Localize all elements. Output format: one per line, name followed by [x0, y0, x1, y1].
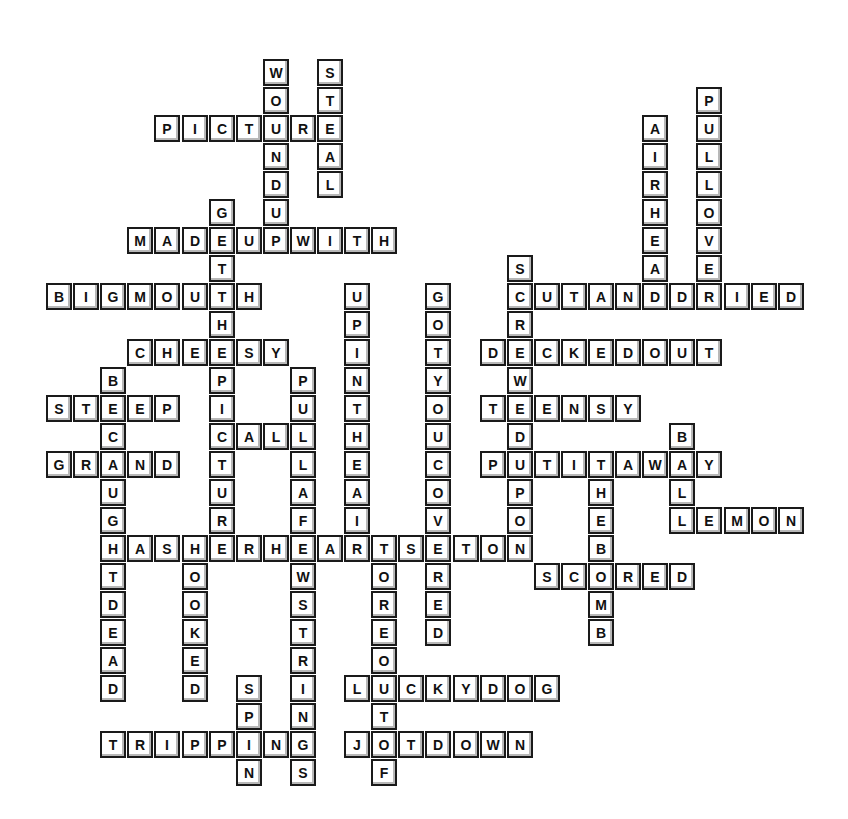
crossword-cell[interactable]: O [371, 647, 397, 674]
crossword-cell[interactable]: A [588, 283, 614, 310]
crossword-cell[interactable]: R [290, 115, 316, 142]
crossword-cell[interactable]: C [507, 283, 533, 310]
crossword-cell[interactable]: T [480, 395, 506, 422]
crossword-cell[interactable]: R [425, 563, 451, 590]
crossword-cell[interactable]: O [480, 535, 506, 562]
crossword-cell[interactable]: D [154, 451, 180, 478]
crossword-cell[interactable]: U [425, 423, 451, 450]
crossword-cell[interactable]: R [209, 507, 235, 534]
crossword-cell[interactable]: V [425, 507, 451, 534]
crossword-cell[interactable]: P [480, 451, 506, 478]
crossword-cell[interactable]: D [425, 731, 451, 758]
crossword-cell[interactable]: I [290, 675, 316, 702]
crossword-cell[interactable]: I [209, 395, 235, 422]
crossword-cell[interactable]: T [398, 731, 424, 758]
crossword-cell[interactable]: C [209, 115, 235, 142]
crossword-cell[interactable]: I [344, 507, 370, 534]
crossword-cell[interactable]: N [561, 395, 587, 422]
crossword-cell[interactable]: B [100, 367, 126, 394]
crossword-cell[interactable]: E [371, 619, 397, 646]
crossword-cell[interactable]: Y [263, 339, 289, 366]
crossword-cell[interactable]: O [507, 675, 533, 702]
crossword-cell[interactable]: R [290, 647, 316, 674]
crossword-cell[interactable]: B [588, 535, 614, 562]
crossword-cell[interactable]: D [182, 227, 208, 254]
crossword-cell[interactable]: E [182, 647, 208, 674]
crossword-cell[interactable]: A [290, 479, 316, 506]
crossword-cell[interactable]: I [642, 143, 668, 170]
crossword-cell[interactable]: D [100, 675, 126, 702]
crossword-cell[interactable]: P [154, 115, 180, 142]
crossword-cell[interactable]: E [209, 227, 235, 254]
crossword-cell[interactable]: R [642, 171, 668, 198]
crossword-cell[interactable]: L [290, 451, 316, 478]
crossword-cell[interactable]: E [182, 339, 208, 366]
crossword-cell[interactable]: I [73, 283, 99, 310]
crossword-cell[interactable]: T [290, 619, 316, 646]
crossword-cell[interactable]: L [696, 143, 722, 170]
crossword-cell[interactable]: D [480, 339, 506, 366]
crossword-cell[interactable]: T [100, 731, 126, 758]
crossword-cell[interactable]: T [209, 451, 235, 478]
crossword-cell[interactable]: H [209, 311, 235, 338]
crossword-cell[interactable]: S [236, 675, 262, 702]
crossword-cell[interactable]: G [46, 451, 72, 478]
crossword-cell[interactable]: S [46, 395, 72, 422]
crossword-cell[interactable]: L [669, 479, 695, 506]
crossword-cell[interactable]: P [344, 311, 370, 338]
crossword-cell[interactable]: E [425, 591, 451, 618]
crossword-cell[interactable]: C [100, 423, 126, 450]
crossword-cell[interactable]: D [669, 283, 695, 310]
crossword-cell[interactable]: A [642, 115, 668, 142]
crossword-cell[interactable]: C [425, 451, 451, 478]
crossword-cell[interactable]: E [642, 563, 668, 590]
crossword-cell[interactable]: A [669, 451, 695, 478]
crossword-cell[interactable]: O [751, 507, 777, 534]
crossword-cell[interactable]: E [642, 227, 668, 254]
crossword-cell[interactable]: U [669, 339, 695, 366]
crossword-cell[interactable]: R [371, 591, 397, 618]
crossword-cell[interactable]: O [371, 731, 397, 758]
crossword-cell[interactable]: O [507, 507, 533, 534]
crossword-cell[interactable]: W [290, 563, 316, 590]
crossword-cell[interactable]: L [263, 423, 289, 450]
crossword-cell[interactable]: H [154, 339, 180, 366]
crossword-cell[interactable]: I [344, 339, 370, 366]
crossword-cell[interactable]: E [209, 535, 235, 562]
crossword-cell[interactable]: U [290, 395, 316, 422]
crossword-cell[interactable]: E [507, 339, 533, 366]
crossword-cell[interactable]: R [236, 535, 262, 562]
crossword-cell[interactable]: D [182, 675, 208, 702]
crossword-cell[interactable]: T [696, 339, 722, 366]
crossword-cell[interactable]: A [100, 647, 126, 674]
crossword-cell[interactable]: H [642, 199, 668, 226]
crossword-cell[interactable]: O [263, 87, 289, 114]
crossword-cell[interactable]: A [154, 227, 180, 254]
crossword-cell[interactable]: R [615, 563, 641, 590]
crossword-cell[interactable]: O [696, 199, 722, 226]
crossword-cell[interactable]: S [290, 591, 316, 618]
crossword-cell[interactable]: S [398, 535, 424, 562]
crossword-cell[interactable]: N [263, 731, 289, 758]
crossword-cell[interactable]: E [290, 535, 316, 562]
crossword-cell[interactable]: G [534, 675, 560, 702]
crossword-cell[interactable]: T [236, 115, 262, 142]
crossword-cell[interactable]: E [588, 339, 614, 366]
crossword-cell[interactable]: P [154, 395, 180, 422]
crossword-cell[interactable]: Y [615, 395, 641, 422]
crossword-cell[interactable]: E [507, 395, 533, 422]
crossword-cell[interactable]: W [507, 367, 533, 394]
crossword-cell[interactable]: S [317, 59, 343, 86]
crossword-cell[interactable]: S [290, 759, 316, 786]
crossword-cell[interactable]: T [344, 227, 370, 254]
crossword-cell[interactable]: I [236, 731, 262, 758]
crossword-cell[interactable]: T [317, 87, 343, 114]
crossword-cell[interactable]: T [371, 703, 397, 730]
crossword-cell[interactable]: O [182, 591, 208, 618]
crossword-cell[interactable]: O [425, 479, 451, 506]
crossword-cell[interactable]: P [209, 367, 235, 394]
crossword-cell[interactable]: B [46, 283, 72, 310]
crossword-cell[interactable]: O [371, 563, 397, 590]
crossword-cell[interactable]: L [344, 675, 370, 702]
crossword-cell[interactable]: E [317, 115, 343, 142]
